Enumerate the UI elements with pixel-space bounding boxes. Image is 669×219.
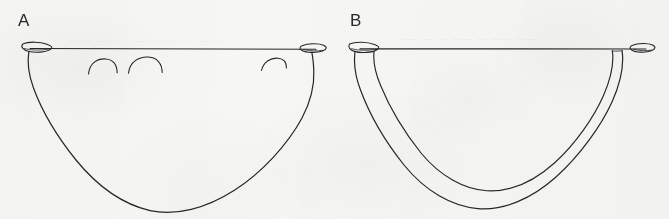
specimen-drawing-panel-b [0, 0, 669, 219]
lip-tip-left-b [349, 42, 379, 52]
inner-body-outline-b [374, 51, 613, 191]
figure-canvas: — — —— — —— —— — —— —— — — —— — —— —— A … [0, 0, 669, 219]
panel-label-a: A [18, 12, 30, 29]
outer-body-outline-b [354, 51, 622, 209]
panel-label-b: B [350, 12, 362, 29]
